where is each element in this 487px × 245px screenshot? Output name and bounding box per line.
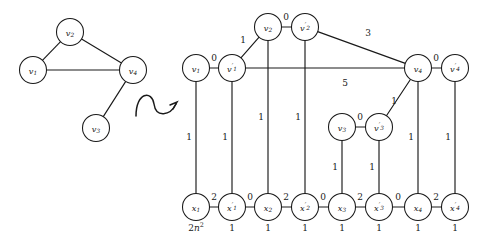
node-gadget-x2: x2 — [255, 194, 282, 221]
node-gadget-x4p: x′4 — [442, 194, 469, 221]
edge-weight-v2-x2: 1 — [258, 112, 264, 122]
edge-gadget-v2p-v4 — [318, 32, 406, 64]
node-gadget-x1: x1 — [183, 194, 210, 221]
node-orig-v3: v3 — [83, 115, 110, 142]
original-graph-nodes: v1v2v3v4 — [20, 19, 147, 142]
node-weight-x2p: 1 — [302, 223, 308, 233]
node-orig-v2: v2 — [57, 19, 84, 46]
edge-weight-x3-x3p: 2 — [357, 192, 363, 202]
edge-weight-v1-x1: 1 — [186, 132, 192, 142]
node-gadget-v2p: v′2 — [292, 14, 319, 41]
edge-weight-x4-x4p: 2 — [433, 192, 439, 202]
edge-weight-v3-v3p: 0 — [357, 112, 363, 122]
edge-orig-v3-v4 — [103, 81, 125, 116]
node-weight-x4: 1 — [415, 223, 421, 233]
edge-gadget-v3p-v4 — [386, 79, 410, 115]
edge-weight-x3p-x4: 0 — [395, 192, 401, 202]
node-gadget-x3: x3 — [329, 194, 356, 221]
node-gadget-v4p: v′4 — [442, 55, 469, 82]
node-gadget-v1: v1 — [183, 55, 210, 82]
edge-weight-labels: 00001351111111112020202 — [186, 12, 451, 202]
node-gadget-v3p: v′3 — [366, 114, 393, 141]
edge-weight-v2p-v4: 3 — [365, 28, 371, 38]
node-gadget-v2: v2 — [255, 14, 282, 41]
edge-weight-x2-x2p: 2 — [283, 192, 289, 202]
node-weight-x2: 1 — [265, 223, 271, 233]
gadget-graph-nodes: v1v′1v2v′2v3v′3v4v′4x1x′1x2x′2x3x′3x4x′4 — [183, 14, 469, 221]
edge-weight-v3-x3: 1 — [332, 162, 338, 172]
diagram-canvas: v1v2v3v4 v1v′1v2v′2v3v′3v4v′4x1x′1x2x′2x… — [0, 0, 487, 245]
edge-weight-v1-v1p: 0 — [211, 53, 217, 63]
edge-weight-v4-v4p: 0 — [433, 53, 439, 63]
node-gadget-x1p: x′1 — [219, 194, 246, 221]
node-gadget-v3: v3 — [329, 114, 356, 141]
edge-weight-v3p-v4: 1 — [391, 96, 397, 106]
edge-weight-x1p-x2: 0 — [247, 192, 253, 202]
node-weight-x3: 1 — [339, 223, 345, 233]
edge-orig-v2-v4 — [82, 39, 122, 63]
edge-weight-v1p-x1p: 1 — [222, 132, 228, 142]
edge-weight-v1p-v4: 5 — [342, 78, 348, 88]
node-weight-x1p: 1 — [229, 223, 235, 233]
node-gadget-x2p: x′2 — [292, 194, 319, 221]
edge-weight-x2p-x3: 0 — [320, 192, 326, 202]
node-weight-x3p: 1 — [376, 223, 382, 233]
gadget-graph-edges — [196, 27, 455, 207]
edge-weight-v1p-v2: 1 — [240, 35, 246, 45]
node-weight-labels: 2n21111111 — [188, 221, 458, 233]
node-gadget-x3p: x′3 — [366, 194, 393, 221]
node-weight-x4p: 1 — [452, 223, 458, 233]
node-gadget-x4: x4 — [405, 194, 432, 221]
node-weight-x1: 2n2 — [188, 221, 204, 233]
transformation-arrow — [136, 95, 177, 116]
node-gadget-v4: v4 — [405, 55, 432, 82]
edge-orig-v1-v2 — [42, 42, 60, 61]
original-graph-edges — [42, 39, 125, 117]
edge-weight-v2p-x2p: 1 — [295, 112, 301, 122]
node-orig-v1: v1 — [20, 57, 47, 84]
edge-weight-v3p-x3p: 1 — [369, 162, 375, 172]
edge-weight-v2-v2p: 0 — [283, 12, 289, 22]
edge-weight-x1-x1p: 2 — [211, 192, 217, 202]
node-orig-v4: v4 — [120, 57, 147, 84]
edge-weight-v4p-x4p: 1 — [445, 132, 451, 142]
figure-container: v1v2v3v4 v1v′1v2v′2v3v′3v4v′4x1x′1x2x′2x… — [0, 0, 487, 245]
edge-weight-v4-x4: 1 — [408, 132, 414, 142]
node-gadget-v1p: v′1 — [219, 55, 246, 82]
